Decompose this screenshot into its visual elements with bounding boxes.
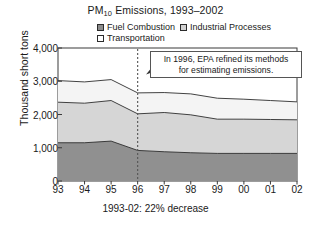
chart-figure: PM10 Emissions, 1993–2002 Fuel Combustio… — [0, 0, 311, 227]
x-tick-94: 94 — [73, 184, 97, 195]
x-axis-ticks: 93949596979899000102 — [0, 184, 311, 198]
x-tick-00: 00 — [232, 184, 256, 195]
x-tick-96: 96 — [126, 184, 150, 195]
x-tick-93: 93 — [46, 184, 70, 195]
chart-caption: 1993-02: 22% decrease — [0, 203, 311, 214]
chart-annotation-box: In 1996, EPA refined its methods for est… — [150, 51, 302, 78]
x-tick-02: 02 — [285, 184, 309, 195]
annotation-line-1: In 1996, EPA refined its methods — [154, 54, 298, 65]
x-tick-97: 97 — [152, 184, 176, 195]
x-tick-99: 99 — [205, 184, 229, 195]
annotation-line-2: for estimating emissions. — [154, 65, 298, 76]
x-tick-01: 01 — [258, 184, 282, 195]
x-tick-95: 95 — [99, 184, 123, 195]
x-tick-98: 98 — [179, 184, 203, 195]
